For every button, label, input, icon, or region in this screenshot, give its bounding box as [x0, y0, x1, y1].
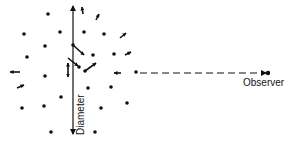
particle-dot	[43, 74, 47, 78]
particle-dot	[82, 30, 86, 34]
particle-dot	[42, 104, 46, 108]
particle-dot	[102, 32, 106, 36]
particle-dot	[59, 95, 63, 99]
particle-dot	[91, 53, 95, 57]
velocity-arrow	[73, 45, 84, 55]
particle-dot	[43, 44, 47, 48]
observer-label: Observer	[243, 78, 284, 88]
particle-dot	[112, 52, 116, 56]
particle-dot	[25, 55, 29, 59]
particle-dot	[109, 85, 113, 89]
observer-point	[266, 71, 270, 75]
particle-dot	[20, 106, 24, 110]
velocity-arrow	[96, 14, 99, 20]
velocity-arrow	[82, 7, 83, 14]
diameter-label: Diameter	[76, 94, 86, 135]
particle-dot	[58, 30, 62, 34]
velocity-arrow	[125, 52, 131, 55]
particle-dot	[125, 101, 129, 105]
particle-dot	[22, 32, 26, 36]
diagram-canvas	[0, 0, 288, 148]
particle-dot	[86, 86, 90, 90]
particle-dot	[46, 12, 50, 16]
particle-dot	[49, 130, 53, 134]
observer-dot	[266, 71, 270, 75]
particle-dot	[99, 106, 103, 110]
particle-dot	[93, 130, 97, 134]
velocity-arrow	[17, 85, 24, 88]
velocity-arrow	[120, 33, 126, 38]
particle-velocity-arrows	[10, 7, 131, 88]
velocity-arrow	[85, 63, 96, 71]
particle-dot	[134, 70, 138, 74]
